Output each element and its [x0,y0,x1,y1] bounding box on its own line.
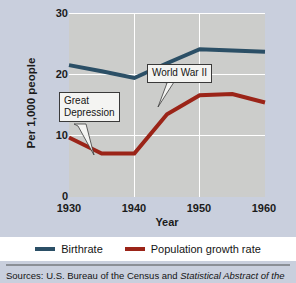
source-note: Sources: U.S. Bureau of the Census and S… [6,270,294,281]
annotation-great-depression: Great Depression [59,92,120,122]
y-axis-title: Per 1,000 people [25,23,37,183]
footer-divider [6,264,290,266]
source-italic-title: Statistical Abstract of the [180,270,284,281]
source-prefix: Sources: U.S. Bureau of the Census and [6,270,180,281]
x-tick-1960: 1960 [242,202,286,214]
legend-label-population-growth-rate: Population growth rate [151,243,261,255]
chart-legend: Birthrate Population growth rate [0,237,296,261]
y-tick-0: 0 [22,191,68,202]
y-tick-30: 30 [22,8,68,19]
population-chart-figure: Great Depression World War II 30 20 10 0… [0,0,296,283]
legend-label-birthrate: Birthrate [61,243,103,255]
x-tick-1930: 1930 [47,202,91,214]
x-tick-1940: 1940 [112,202,156,214]
annotation-world-war-ii: World War II [147,64,212,83]
chart-panel: Great Depression World War II 30 20 10 0… [0,0,296,236]
legend-item-population-growth-rate: Population growth rate [125,243,261,255]
x-tick-1950: 1950 [177,202,221,214]
y-axis-ticks: 30 20 10 0 [16,0,68,210]
x-axis-title: Year [69,216,265,228]
legend-item-birthrate: Birthrate [35,243,103,255]
legend-swatch-population-growth-rate [125,247,145,251]
legend-swatch-birthrate [35,247,55,251]
x-axis-ticks: 1930 1940 1950 1960 [69,202,265,216]
